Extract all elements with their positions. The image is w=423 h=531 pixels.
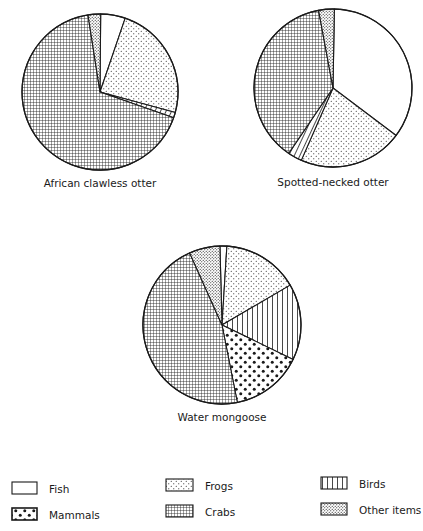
legend-swatch-mammals: [12, 508, 37, 520]
pie-title-spotted-necked-otter: Spotted-necked otter: [277, 176, 389, 188]
legend-swatch-birds: [321, 477, 347, 489]
legend-item-frogs: Frogs: [166, 479, 233, 492]
legend: Fish Mammals Frogs Crabs Birds Other ite…: [12, 477, 421, 521]
legend-swatch-frogs: [166, 479, 193, 491]
legend-item-birds: Birds: [321, 477, 385, 490]
legend-swatch-crabs: [166, 505, 193, 517]
legend-swatch-fish: [12, 482, 37, 494]
legend-label-fish: Fish: [49, 483, 69, 495]
diet-pie-charts: African clawless otter Spotted-necked ot…: [0, 0, 423, 531]
legend-item-crabs: Crabs: [166, 505, 235, 518]
legend-item-fish: Fish: [12, 482, 69, 495]
pie-title-african-clawless-otter: African clawless otter: [44, 177, 157, 189]
pie-water-mongoose: [143, 246, 301, 404]
legend-swatch-other-items: [321, 503, 347, 515]
legend-label-mammals: Mammals: [49, 509, 100, 521]
legend-item-other-items: Other items: [321, 503, 421, 516]
legend-label-frogs: Frogs: [205, 480, 233, 492]
pie-african-clawless-otter: [22, 14, 178, 170]
pie-title-water-mongoose: Water mongoose: [177, 411, 266, 423]
legend-label-other-items: Other items: [359, 504, 421, 516]
pie-spotted-necked-otter: [254, 9, 412, 167]
legend-label-crabs: Crabs: [205, 506, 235, 518]
legend-item-mammals: Mammals: [12, 508, 100, 521]
legend-label-birds: Birds: [359, 478, 385, 490]
